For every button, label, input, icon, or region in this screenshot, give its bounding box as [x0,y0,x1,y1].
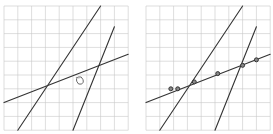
panel-left [4,6,128,130]
steep-line-2 [73,27,114,131]
data-point [254,58,258,62]
shallow-line [4,54,128,102]
data-point [176,87,180,91]
shallow-line [146,54,270,102]
steep-line-2 [215,27,256,131]
data-point [192,80,196,84]
data-point [216,72,220,76]
data-point [169,87,173,91]
data-point [241,63,245,67]
panel-right [146,6,270,130]
diagram-canvas [0,0,273,134]
